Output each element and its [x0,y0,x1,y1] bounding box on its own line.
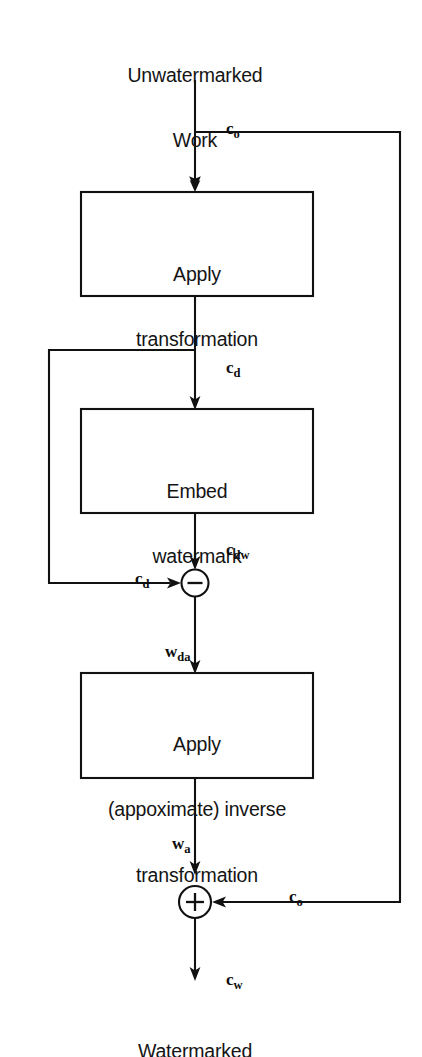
block-embed-watermark-label: Embed watermark [81,437,313,612]
signal-w-da-base: w [165,642,177,661]
signal-label-c-o-bypass: co [272,868,303,925]
signal-w-a-base: w [172,834,184,853]
signal-c-dw-sub: dw [234,548,250,562]
signal-label-c-o-input: co [209,100,240,157]
signal-c-d-feedback-base: c [135,569,143,588]
input-endpoint-label: Unwatermarked Work [61,21,329,196]
block-apply-transformation-label: Apply transformation [81,220,313,395]
block1-line1: Apply [81,264,313,286]
signal-w-a-sub: a [184,842,190,856]
signal-label-c-dw: cdw [209,521,250,578]
signal-c-o-bypass-base: c [289,887,297,906]
signal-c-w-output-base: c [226,970,234,989]
signal-c-d-feedback-sub: d [143,577,150,591]
input-endpoint-line1: Unwatermarked [61,65,329,87]
signal-label-w-a: wa [155,815,191,872]
signal-c-dw-base: c [226,540,234,559]
signal-w-da-sub: da [177,650,190,664]
signal-c-w-output-sub: w [234,978,243,992]
block3-line1: Apply [75,734,319,756]
signal-c-d-main-sub: d [234,366,241,380]
output-endpoint-line1: Watermarked [61,1041,329,1057]
output-endpoint-label: Watermarked Work [61,997,329,1057]
input-endpoint-line2: Work [61,130,329,152]
block1-line2: transformation [81,329,313,351]
signal-label-c-d-feedback: cd [118,550,150,607]
block2-line1: Embed [81,481,313,503]
signal-c-d-main-base: c [226,358,234,377]
signal-label-c-w-output: cw [209,951,243,1008]
signal-label-c-d-main: cd [209,339,241,396]
signal-c-o-bypass-sub: o [297,895,303,909]
signal-c-o-input-sub: o [234,127,240,141]
watermark-embedding-diagram: Unwatermarked Work Apply transformation … [0,0,422,1057]
signal-label-w-da: wda [148,623,190,680]
signal-c-o-input-base: c [226,119,234,138]
block2-line2: watermark [81,546,313,568]
block3-line2: (appoximate) inverse [75,799,319,821]
